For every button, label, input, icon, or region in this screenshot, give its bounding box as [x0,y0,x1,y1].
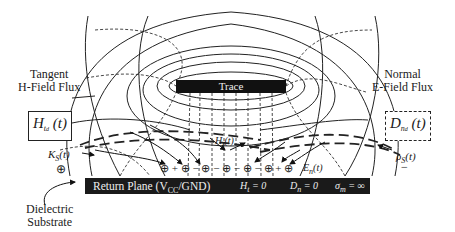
d-normal-zero-condition: Dn = 0 [290,178,318,198]
return-plane: Return Plane (VCC/GND) Ht = 0 Dn = 0 σm … [85,178,370,194]
d-normal-symbol-box: Dnd (t) [385,111,431,141]
h-tangent-symbol-box: Htd (t) [28,111,72,141]
field-diagram: Trace Return Plane (VCC/GND) Ht = 0 Dn =… [0,0,455,232]
conductivity-infinite-condition: σm = ∞ [335,178,365,198]
surface-current-label: KS(t) [48,148,70,163]
surface-charge-marker: − [401,160,408,175]
trace-conductor: Trace [176,80,286,93]
trace-label: Trace [219,80,244,92]
h-tangent-zero-condition: Ht = 0 [240,178,266,198]
surface-charge-row: ⊕ + ⊕ − ⊕ − ⊕ − ⊕ − ⊕ + ⊕ [160,162,293,175]
normal-e-field-label: Normal E-Field Flux [372,68,433,94]
surface-current-marker: ⊕ [56,162,66,177]
inner-e-normal-label: En(t) [303,162,323,176]
inner-h-tangent-label: Ht(t) [215,135,234,149]
tangent-h-field-label: Tangent H-Field Flux [18,68,80,94]
dielectric-substrate-label: Dielectric Substrate [26,203,73,229]
return-plane-label: Return Plane (VCC/GND) [93,178,210,199]
